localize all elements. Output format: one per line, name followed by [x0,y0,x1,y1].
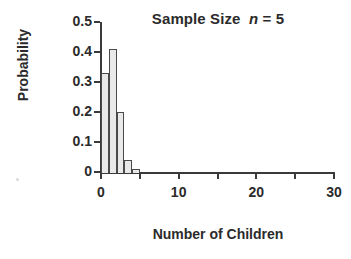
x-tick-mark [217,173,219,179]
plot-area: 00.10.20.30.40.5 0102030 [101,22,334,172]
y-tick-mark [94,141,100,143]
y-tick-mark [94,21,100,23]
x-tick-mark [294,173,296,179]
bar [117,112,125,173]
y-tick-label: 0.2 [73,103,92,119]
y-tick-mark [94,51,100,53]
x-tick-label: 0 [97,184,105,200]
bar [132,169,140,173]
y-tick-label: 0.5 [73,13,92,29]
x-axis-title: Number of Children [101,226,335,242]
x-tick-mark [178,173,180,179]
x-tick-label: 30 [326,184,342,200]
y-tick-mark [94,111,100,113]
x-tick-mark [255,173,257,179]
histogram-figure: Sample Size n = 5 Probability Number of … [0,0,351,259]
y-tick-label: 0 [84,163,92,179]
x-tick-label: 20 [249,184,265,200]
x-tick-mark [100,173,102,179]
y-tick-label: 0.3 [73,73,92,89]
x-tick-mark [139,173,141,179]
y-axis-title: Probability [15,5,31,125]
x-tick-label: 10 [171,184,187,200]
y-tick-label: 0.4 [73,43,92,59]
scan-speck [16,178,19,181]
bar [124,160,132,173]
y-tick-label: 0.1 [73,133,92,149]
x-tick-mark [333,173,335,179]
bar [109,49,117,173]
bar [101,73,109,173]
y-tick-mark [94,81,100,83]
